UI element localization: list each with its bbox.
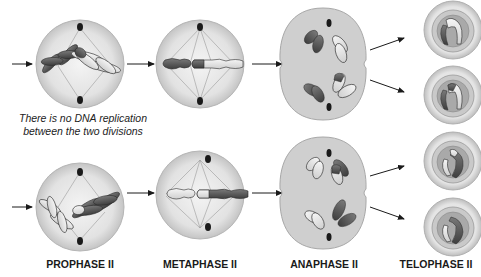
stage-label-metaphase: METAPHASE II: [145, 258, 255, 270]
chromosomes-aligned: [163, 59, 243, 70]
telophase-cell-bottom-2: [424, 198, 481, 256]
centrosome-icon: [77, 23, 83, 31]
anaphase-cell-top: [280, 8, 366, 120]
metaphase-cell-bottom: [156, 151, 248, 239]
metaphase-cell-top: [156, 20, 244, 108]
note-line-1: There is no DNA replication: [8, 112, 158, 125]
centrosome-icon: [77, 96, 83, 104]
centrosome-icon: [197, 97, 203, 105]
centrosome-icon: [327, 19, 332, 27]
centrosome-icon: [327, 103, 332, 111]
note-line-2: between the two divisions: [8, 125, 158, 138]
telophase-cell-top-1: [424, 1, 481, 59]
telophase-cell-bottom-1: [424, 132, 481, 190]
chromosomes-aligned: [167, 189, 248, 200]
meiosis-ii-diagram: [0, 0, 481, 277]
centrosome-icon: [77, 168, 83, 176]
centrosome-icon: [327, 233, 332, 241]
arrow-anaphase-telophase-top-2: [370, 80, 404, 92]
arrow-anaphase-telophase-top-1: [370, 38, 404, 50]
telophase-cell-top-2: [424, 66, 481, 124]
centrosome-icon: [205, 223, 211, 231]
prophase-cell-top: [35, 20, 124, 108]
centrosome-icon: [205, 155, 211, 163]
centrosome-icon: [197, 23, 203, 31]
stage-label-anaphase: ANAPHASE II: [269, 258, 379, 270]
centrosome-icon: [327, 149, 332, 157]
stage-label-telophase: TELOPHASE II: [381, 258, 481, 270]
arrow-anaphase-telophase-bottom-2: [370, 207, 404, 219]
anaphase-cell-bottom: [280, 137, 366, 249]
centrosome-icon: [77, 237, 83, 245]
prophase-cell-bottom: [35, 163, 125, 251]
no-replication-note: There is no DNA replication between the …: [8, 112, 158, 138]
arrow-anaphase-telophase-bottom-1: [370, 166, 404, 176]
stage-label-prophase: PROPHASE II: [25, 258, 135, 270]
